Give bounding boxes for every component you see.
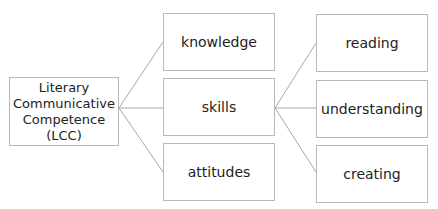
node-attitudes-label: attitudes (188, 164, 251, 180)
node-creating: creating (316, 145, 428, 203)
connector-root-knowledge (119, 42, 163, 108)
node-understanding: understanding (316, 80, 428, 138)
node-lcc-line-1: Literary (10, 80, 118, 96)
node-skills: skills (163, 78, 275, 136)
node-lcc: Literary Communicative Competence (LCC) (9, 77, 119, 146)
node-understanding-label: understanding (321, 101, 423, 117)
connector-root-attitudes (119, 108, 163, 172)
node-lcc-line-3: Competence (LCC) (10, 112, 118, 144)
node-reading-label: reading (345, 35, 398, 51)
node-attitudes: attitudes (163, 143, 275, 201)
connector-skills-reading (275, 43, 316, 108)
node-lcc-line-2: Communicative (10, 96, 118, 112)
node-skills-label: skills (202, 99, 236, 115)
node-knowledge-label: knowledge (181, 34, 257, 50)
node-knowledge: knowledge (163, 13, 275, 71)
node-creating-label: creating (343, 166, 400, 182)
connector-skills-creating (275, 108, 316, 172)
node-reading: reading (316, 14, 428, 72)
